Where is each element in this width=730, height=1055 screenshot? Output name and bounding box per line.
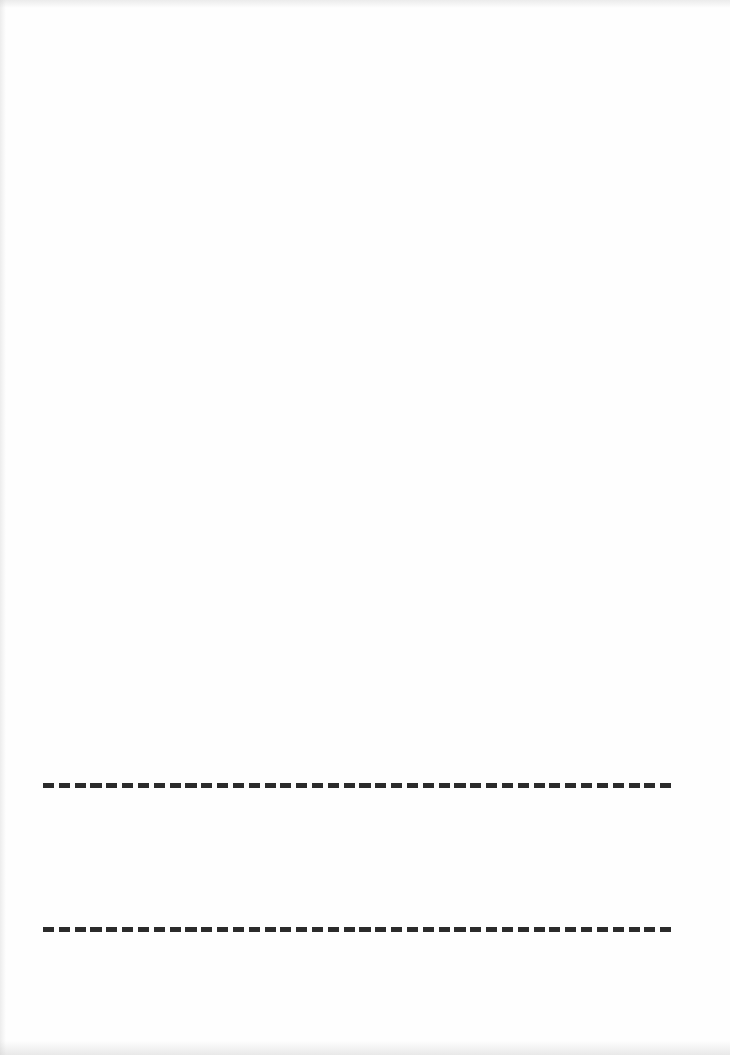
document-page	[0, 0, 730, 1055]
scan-shadow-top	[0, 0, 730, 8]
scan-shadow-left	[0, 0, 6, 1055]
dashed-separator-line-lower	[43, 927, 676, 932]
scan-shadow-bottom	[0, 1041, 730, 1055]
dashed-separator-line-upper	[43, 783, 676, 788]
